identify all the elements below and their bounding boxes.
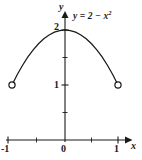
- equation-base: y = 2 − x: [73, 11, 108, 21]
- parabola-figure: y x 2 1 0 1 -1 y = 2 − x2: [0, 0, 142, 160]
- open-endpoint-left: [9, 82, 15, 88]
- x-tick-label-1: 1: [114, 144, 119, 154]
- equation-exponent: 2: [108, 9, 111, 16]
- y-axis-arrowhead: [62, 11, 69, 18]
- equation-annotation: y = 2 − x2: [73, 12, 112, 22]
- y-tick-label-1: 1: [54, 80, 59, 90]
- y-axis-label: y: [59, 2, 63, 12]
- plot-canvas: [0, 0, 142, 160]
- x-axis-label: x: [131, 141, 136, 151]
- x-tick-label-neg-1: -1: [1, 144, 9, 154]
- open-endpoint-right: [115, 82, 121, 88]
- y-tick-label-2: 2: [54, 22, 59, 32]
- x-tick-label-0: 0: [61, 144, 66, 154]
